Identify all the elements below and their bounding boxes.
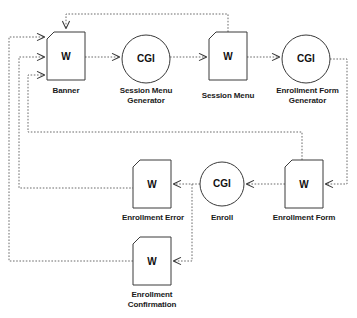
edge-enrollment-form-generator-to-enrollment-form <box>326 59 347 184</box>
node-label-enrollment-form-generator: Enrollment Form Generator <box>260 86 355 105</box>
node-glyph-session-menu: W <box>209 51 247 62</box>
node-glyph-session-menu-generator: CGI <box>122 53 170 64</box>
edge-session-menu-to-banner-feedback <box>66 14 228 32</box>
node-glyph-enrollment-error: W <box>133 179 171 190</box>
node-label-banner: Banner <box>36 86 96 96</box>
node-glyph-enroll: CGI <box>200 178 244 189</box>
node-label-session-menu: Session Menu <box>193 91 263 101</box>
edge-enroll-to-enrollment-confirmation <box>174 184 192 261</box>
node-glyph-enrollment-form: W <box>285 179 323 190</box>
node-glyph-banner: W <box>47 51 85 62</box>
node-glyph-enrollment-form-generator: CGI <box>282 53 330 64</box>
node-label-enroll: Enroll <box>200 213 244 223</box>
diagram-canvas: W CGI W CGI W CGI W W Banner Session Men… <box>0 0 357 318</box>
node-label-enrollment-confirmation: Enrollment Confirmation <box>116 290 188 309</box>
diagram-edges-layer <box>0 0 357 318</box>
node-label-enrollment-error: Enrollment Error <box>113 213 193 223</box>
node-label-session-menu-generator: Session Menu Generator <box>101 86 191 105</box>
node-glyph-enrollment-confirmation: W <box>133 256 171 267</box>
node-label-enrollment-form: Enrollment Form <box>261 213 347 223</box>
